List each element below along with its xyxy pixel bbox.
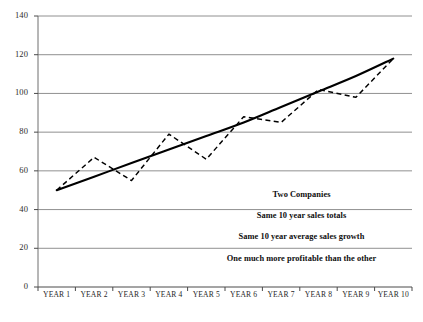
x-axis-tick-label: YEAR 7	[262, 290, 299, 299]
annotation-line: Two Companies	[180, 190, 423, 200]
annotation-line: Same 10 year sales totals	[180, 211, 423, 221]
y-axis-tick-label: 40	[2, 205, 28, 214]
y-axis-tick-label: 120	[2, 50, 28, 59]
x-axis-tick-label: YEAR 6	[225, 290, 262, 299]
y-axis-tick-label: 60	[2, 166, 28, 175]
y-axis-tick-label: 0	[2, 282, 28, 291]
x-axis-tick-label: YEAR 3	[113, 290, 150, 299]
x-axis-tick-label: YEAR 2	[75, 290, 112, 299]
x-axis-tick-label: YEAR 10	[375, 290, 412, 299]
plot-area	[0, 0, 423, 322]
annotation-line: One much more profitable than the other	[180, 254, 423, 264]
x-axis-tick-label: YEAR 1	[38, 290, 75, 299]
y-axis-tick-label: 20	[2, 243, 28, 252]
y-axis-ticks	[34, 16, 38, 287]
line-chart: 020406080100120140 YEAR 1YEAR 2YEAR 3YEA…	[0, 0, 423, 322]
x-axis-tick-label: YEAR 9	[337, 290, 374, 299]
x-axis-tick-label: YEAR 4	[150, 290, 187, 299]
x-axis-tick-label: YEAR 5	[188, 290, 225, 299]
y-axis-tick-label: 140	[2, 11, 28, 20]
y-axis-tick-label: 80	[2, 127, 28, 136]
y-axis-tick-label: 100	[2, 88, 28, 97]
x-axis-tick-label: YEAR 8	[300, 290, 337, 299]
annotation-line: Same 10 year average sales growth	[180, 232, 423, 242]
